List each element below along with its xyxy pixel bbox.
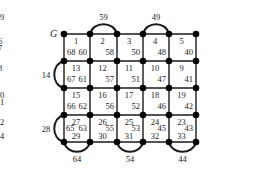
grid-node	[193, 112, 200, 119]
cell-step-number: 50	[132, 47, 141, 57]
grid-node	[87, 85, 94, 92]
cell-step-number: 20	[0, 90, 4, 100]
grid-node	[87, 139, 94, 146]
cell-step-number: 22	[0, 117, 4, 127]
cell-step-number: 41	[185, 74, 194, 84]
cell-step-number: 67	[67, 74, 76, 84]
cell-step-number: 68	[67, 47, 76, 57]
grid-node	[114, 85, 121, 92]
cell-step-number: 13	[72, 63, 81, 73]
grid-node	[114, 58, 121, 65]
cell-step-number: 46	[158, 101, 167, 111]
grid-node	[193, 85, 200, 92]
detour-arc	[117, 142, 143, 152]
cell-step-number: 11	[125, 63, 133, 73]
cell-step-number: 51	[132, 74, 141, 84]
cell-step-number: 31	[125, 131, 134, 141]
cell-step-number: 10	[151, 63, 160, 73]
cell-step-number: 48	[158, 47, 167, 57]
grid-node	[140, 31, 147, 38]
cell-step-number: 47	[158, 74, 167, 84]
grid-node	[61, 112, 68, 119]
arc-label: 49	[152, 12, 161, 22]
detour-arc	[169, 142, 196, 152]
cell-step-number: 58	[106, 47, 115, 57]
cell-step-number: 34	[0, 131, 5, 141]
grid-node	[140, 58, 147, 65]
grid-node	[114, 112, 121, 119]
grid-node	[166, 112, 173, 119]
grid-node	[114, 31, 121, 38]
cell-step-number: 33	[177, 131, 186, 141]
arc-label: 39	[0, 12, 4, 22]
cell-step-number: 42	[185, 101, 194, 111]
cell-step-number: 8	[0, 63, 2, 73]
grid-node	[193, 58, 200, 65]
grid-node	[140, 85, 147, 92]
start-label-g: G	[50, 28, 57, 39]
cell-step-number: 55	[106, 123, 115, 133]
cell-step-number: 15	[72, 90, 81, 100]
cell-step-number: 60	[79, 47, 88, 57]
cell-step-number: 17	[125, 90, 134, 100]
cell-step-number: 32	[151, 131, 160, 141]
cell-step-number: 5	[179, 36, 183, 46]
grid-node	[61, 139, 68, 146]
detour-arc	[64, 142, 90, 152]
arc-label: 28	[42, 124, 51, 134]
grid-node	[87, 58, 94, 65]
arc-label: 14	[42, 70, 51, 80]
detour-arc	[54, 115, 64, 142]
cell-step-number: 56	[106, 101, 115, 111]
cell-step-number: 2	[100, 36, 104, 46]
detour-arc	[90, 24, 117, 34]
cell-step-number: 16	[98, 90, 107, 100]
cell-step-number: 1	[74, 36, 78, 46]
cell-step-number: 30	[98, 131, 107, 141]
cell-step-number: 62	[79, 101, 88, 111]
cell-step-number: 9	[179, 63, 183, 73]
grid-node	[166, 58, 173, 65]
cell-step-number: 52	[132, 101, 141, 111]
cell-step-number: 12	[98, 63, 107, 73]
cell-step-number: 66	[67, 101, 76, 111]
detour-arc	[54, 61, 64, 88]
cell-step-number: 4	[153, 36, 158, 46]
grid-node	[61, 58, 68, 65]
cell-step-number: 6	[0, 36, 2, 46]
cell-step-number: 3	[127, 36, 131, 46]
grid-node	[87, 112, 94, 119]
grid-node	[166, 139, 173, 146]
grid-route-diagram: 5949397211428645444168602583504485406381…	[0, 0, 257, 177]
arc-label: 59	[99, 12, 108, 22]
grid-node	[140, 112, 147, 119]
arc-label: 64	[73, 154, 82, 164]
grid-node	[87, 31, 94, 38]
arc-label: 54	[126, 154, 135, 164]
grid-node	[166, 85, 173, 92]
grid-node	[140, 139, 147, 146]
detour-arc	[143, 24, 169, 34]
grid-node	[193, 31, 200, 38]
cell-step-number: 19	[177, 90, 186, 100]
grid-node	[61, 31, 68, 38]
cell-step-number: 40	[185, 47, 194, 57]
cell-step-number: 43	[185, 123, 194, 133]
cell-step-number: 18	[151, 90, 160, 100]
arc-label: 44	[178, 154, 187, 164]
cell-step-number: 61	[79, 74, 88, 84]
grid-node	[61, 85, 68, 92]
grid-node	[166, 31, 173, 38]
grid-node	[193, 139, 200, 146]
grid-node	[114, 139, 121, 146]
cell-step-number: 29	[72, 131, 81, 141]
cell-step-number: 57	[106, 74, 115, 84]
